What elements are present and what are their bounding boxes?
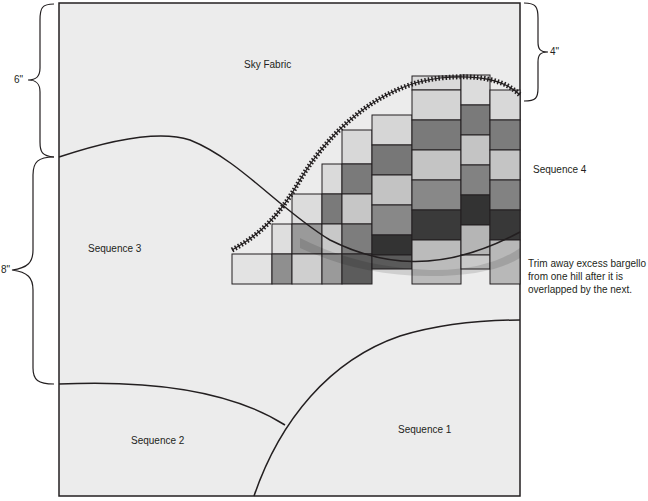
label-sequence-4: Sequence 4 [533, 164, 586, 175]
label-sequence-3: Sequence 3 [88, 243, 141, 254]
dimension-8-inch: 8" [1, 264, 10, 275]
label-sequence-1: Sequence 1 [398, 424, 451, 435]
label-sky-fabric: Sky Fabric [244, 59, 291, 70]
dimension-6-inch: 6" [14, 74, 23, 85]
label-sequence-2: Sequence 2 [131, 435, 184, 446]
brace-left-bottom [12, 157, 54, 384]
trim-instruction-note: Trim away excess bargello from one hill … [528, 257, 648, 296]
dimension-4-inch: 4" [550, 46, 559, 57]
brace-right-top [524, 3, 548, 101]
brace-left-top [28, 4, 54, 157]
